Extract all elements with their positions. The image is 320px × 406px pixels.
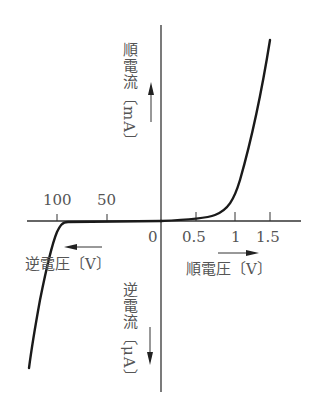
arrow-right-icon: [218, 250, 259, 256]
arrow-down-icon: [147, 327, 153, 365]
tick-label-50: 50: [97, 193, 116, 208]
reverse-voltage-label: 逆電圧〔V〕: [25, 257, 111, 272]
tick-label-100: 100: [43, 193, 72, 208]
tick-label-1-5: 1.5: [256, 230, 280, 245]
forward-curve: [161, 40, 270, 221]
forward-voltage-label: 順電圧〔V〕: [186, 262, 272, 277]
tick-label-origin: 0: [148, 230, 158, 245]
forward-current-label: 順電流〔mA〕: [121, 42, 136, 149]
reverse-current-label: 逆電流〔μA〕: [121, 282, 136, 385]
tick-label-0-5: 0.5: [182, 230, 206, 245]
tick-label-1: 1: [231, 230, 241, 245]
arrow-left-icon: [64, 244, 102, 250]
reverse-curve: [29, 221, 161, 368]
arrow-up-icon: [148, 82, 154, 122]
